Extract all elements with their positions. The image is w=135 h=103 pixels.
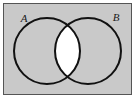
set-b-label: B xyxy=(113,11,120,23)
venn-diagram-canvas: A B xyxy=(0,0,135,103)
set-a-label: A xyxy=(20,12,28,24)
venn-diagram-figure: A B xyxy=(0,0,135,103)
